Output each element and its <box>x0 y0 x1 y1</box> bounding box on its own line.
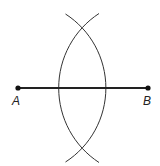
point-b <box>145 85 150 90</box>
point-a <box>15 85 20 90</box>
label-a: A <box>11 94 20 108</box>
bisector-diagram: A B <box>0 0 160 166</box>
label-b: B <box>143 94 151 108</box>
